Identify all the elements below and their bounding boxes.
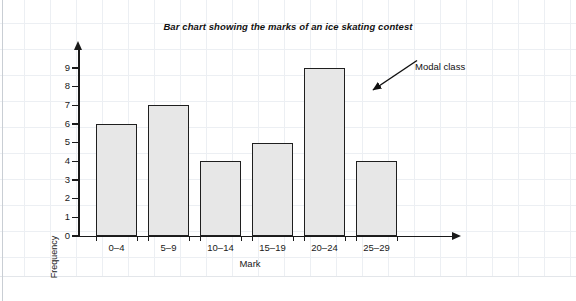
- x-tick-mark: [356, 236, 357, 241]
- x-tick-mark: [252, 236, 253, 241]
- y-tick-label: 5: [54, 137, 70, 147]
- bar: [304, 68, 345, 236]
- x-tick-mark: [189, 236, 190, 241]
- y-axis-arrowhead-icon: [74, 41, 82, 50]
- y-tick-mark: [72, 67, 78, 68]
- y-tick-label: 2: [54, 193, 70, 203]
- y-tick-mark: [72, 123, 78, 124]
- y-tick-label: 4: [54, 156, 70, 166]
- bar: [200, 161, 241, 236]
- y-axis-title: Frequency: [49, 217, 59, 297]
- x-tick-mark: [241, 236, 242, 241]
- modal-class-annotation-label: Modal class: [415, 61, 465, 72]
- bar: [148, 105, 189, 236]
- y-tick-label: 9: [54, 63, 70, 73]
- x-tick-label: 5–9: [143, 242, 195, 253]
- y-tick-label: 7: [54, 100, 70, 110]
- x-tick-mark: [96, 236, 97, 241]
- y-tick-label: 1: [54, 212, 70, 222]
- x-tick-label: 25–29: [351, 242, 403, 253]
- y-tick-mark: [72, 235, 78, 236]
- y-tick-mark: [72, 105, 78, 106]
- bar: [252, 143, 293, 236]
- x-tick-label: 10–14: [195, 242, 247, 253]
- y-tick-label: 3: [54, 175, 70, 185]
- page-background: Bar chart showing the marks of an ice sk…: [0, 0, 576, 301]
- x-tick-mark: [397, 236, 398, 241]
- bar: [96, 124, 137, 236]
- y-tick-mark: [72, 86, 78, 87]
- bar-chart-plot-area: Frequency 0123456789 0–45–910–1415–1920–…: [0, 0, 576, 276]
- modal-class-arrow-icon: [365, 58, 421, 96]
- x-axis-title: Mark: [195, 258, 305, 269]
- y-tick-label: 6: [54, 119, 70, 129]
- page-footer-area: [0, 277, 576, 301]
- x-axis-arrowhead-icon: [452, 232, 461, 240]
- x-tick-mark: [137, 236, 138, 241]
- y-tick-mark: [72, 179, 78, 180]
- y-tick-mark: [72, 161, 78, 162]
- x-tick-mark: [345, 236, 346, 241]
- y-tick-mark: [72, 142, 78, 143]
- y-tick-mark: [72, 198, 78, 199]
- y-tick-mark: [72, 217, 78, 218]
- x-tick-mark: [148, 236, 149, 241]
- y-tick-label: 8: [54, 81, 70, 91]
- bar: [356, 161, 397, 236]
- x-tick-label: 15–19: [247, 242, 299, 253]
- x-tick-mark: [200, 236, 201, 241]
- y-tick-label: 0: [54, 231, 70, 241]
- x-tick-mark: [304, 236, 305, 241]
- x-tick-mark: [293, 236, 294, 241]
- x-tick-label: 20–24: [299, 242, 351, 253]
- x-tick-label: 0–4: [91, 242, 143, 253]
